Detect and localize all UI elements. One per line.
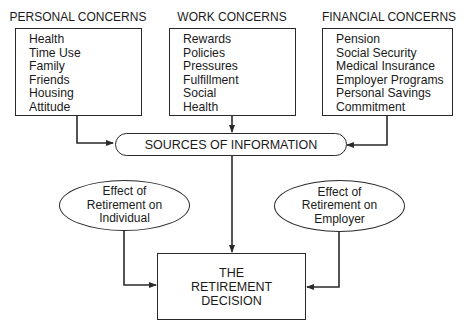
edge-individual-decision [124, 231, 156, 285]
decision-line: THE [219, 266, 244, 280]
edge-employer-decision [307, 232, 339, 287]
effect-on-individual-node: Effect of Retirement on Individual [59, 180, 190, 231]
list-item: Health [183, 101, 295, 115]
work-concerns-title: WORK CONCERNS [160, 10, 304, 24]
work-concerns-list: Rewards Policies Pressures Fulfillment S… [170, 29, 295, 114]
effect-line: Employer [314, 213, 365, 227]
financial-concerns-list: Pension Social Security Medical Insuranc… [323, 29, 452, 114]
personal-concerns-box: Health Time Use Family Friends Housing A… [15, 28, 142, 116]
effect-line: Individual [99, 212, 150, 226]
effect-line: Retirement on [302, 199, 377, 213]
list-item: Attitude [29, 101, 141, 115]
sources-of-information-label: SOURCES OF INFORMATION [145, 138, 318, 152]
list-item: Social Security [336, 47, 452, 61]
list-item: Rewards [183, 33, 295, 47]
decision-line: RETIREMENT [191, 280, 272, 294]
personal-concerns-title: PERSONAL CONCERNS [0, 10, 156, 24]
list-item: Family [29, 60, 141, 74]
decision-line: DECISION [201, 294, 261, 308]
financial-concerns-box: Pension Social Security Medical Insuranc… [322, 28, 453, 116]
edge-financial-sources [347, 116, 387, 145]
retirement-decision-node: THE RETIREMENT DECISION [157, 253, 306, 320]
effect-line: Retirement on [87, 199, 162, 213]
edge-personal-sources [77, 116, 113, 143]
list-item: Pressures [183, 60, 295, 74]
list-item: Health [29, 33, 141, 47]
list-item: Fulfillment [183, 74, 295, 88]
list-item: Policies [183, 47, 295, 61]
sources-of-information-node: SOURCES OF INFORMATION [115, 133, 347, 156]
list-item: Friends [29, 74, 141, 88]
list-item: Time Use [29, 47, 141, 61]
work-concerns-box: Rewards Policies Pressures Fulfillment S… [169, 28, 296, 116]
list-item: Pension [336, 33, 452, 47]
list-item: Employer Programs [336, 74, 452, 88]
list-item: Medical Insurance [336, 60, 452, 74]
financial-concerns-title: FINANCIAL CONCERNS [314, 10, 464, 24]
personal-concerns-list: Health Time Use Family Friends Housing A… [16, 29, 141, 114]
list-item: Housing [29, 87, 141, 101]
list-item: Social [183, 87, 295, 101]
effect-line: Effect of [103, 185, 147, 199]
list-item: Personal Savings [336, 87, 452, 101]
effect-line: Effect of [318, 186, 362, 200]
list-item: Commitment [336, 101, 452, 115]
effect-on-employer-node: Effect of Retirement on Employer [274, 180, 405, 232]
